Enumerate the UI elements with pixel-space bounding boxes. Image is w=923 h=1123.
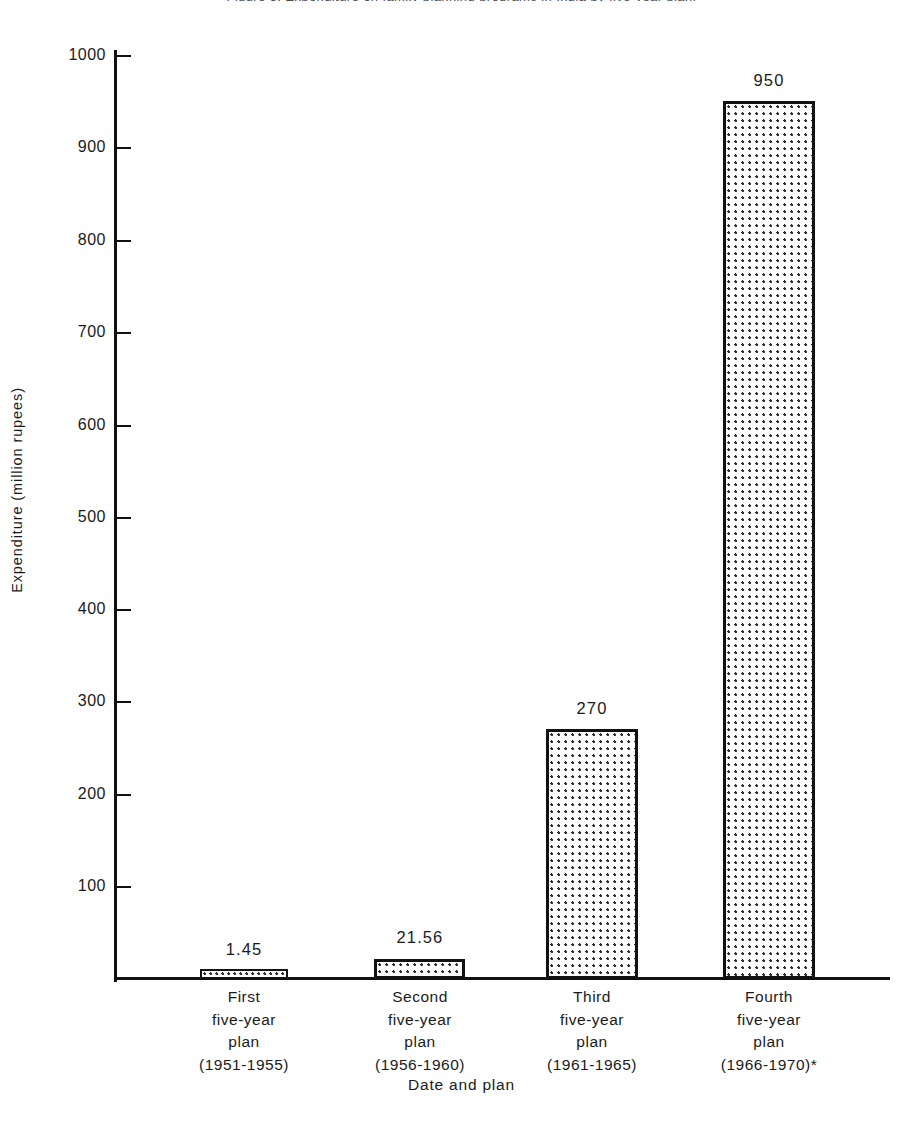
y-tick-label-600: 600 — [48, 417, 106, 433]
category-label-second-line1: Second — [340, 986, 500, 1009]
y-tick-label-900: 900 — [48, 139, 106, 155]
y-tick-700 — [117, 332, 131, 334]
category-label-first-line2: five-year — [164, 1009, 324, 1032]
category-label-fourth-line4: (1966-1970)* — [689, 1054, 849, 1077]
bar-first-five-year-plan[interactable] — [200, 969, 288, 979]
y-tick-label-wrap-500: 500 — [48, 509, 106, 525]
x-axis-title: Date and plan — [0, 1076, 923, 1094]
y-tick-100 — [117, 886, 131, 888]
y-axis-title: Expenditure (million rupees) — [0, 0, 34, 979]
y-tick-label-200: 200 — [48, 786, 106, 802]
y-tick-500 — [117, 517, 131, 519]
category-label-third-line4: (1961-1965) — [512, 1054, 672, 1077]
bar-value-second: 21.56 — [366, 929, 474, 946]
y-tick-800 — [117, 240, 131, 242]
y-axis-line — [114, 50, 117, 982]
y-tick-label-100: 100 — [48, 878, 106, 894]
category-label-second-line3: plan — [340, 1031, 500, 1054]
y-tick-label-400: 400 — [48, 601, 106, 617]
category-label-second-line2: five-year — [340, 1009, 500, 1032]
y-tick-label-700: 700 — [48, 324, 106, 340]
category-label-fourth-line1: Fourth — [689, 986, 849, 1009]
category-label-third-line3: plan — [512, 1031, 672, 1054]
y-tick-400 — [117, 609, 131, 611]
y-tick-900 — [117, 147, 131, 149]
y-tick-label-1000: 1000 — [48, 47, 106, 63]
category-label-first-line3: plan — [164, 1031, 324, 1054]
y-tick-label-wrap-600: 600 — [48, 417, 106, 433]
y-tick-label-wrap-700: 700 — [48, 324, 106, 340]
category-label-fourth: Fourth five-year plan (1966-1970)* — [689, 986, 849, 1076]
bar-third-five-year-plan[interactable] — [546, 729, 638, 979]
bar-value-fourth: 950 — [721, 72, 817, 89]
y-axis-title-text: Expenditure (million rupees) — [9, 387, 25, 593]
category-label-first-line1: First — [164, 986, 324, 1009]
y-tick-600 — [117, 425, 131, 427]
top-caption-cropped: Figure 3. Expenditure on family planning… — [0, 0, 923, 1]
category-label-third-line2: five-year — [512, 1009, 672, 1032]
y-tick-label-wrap-800: 800 — [48, 232, 106, 248]
bar-second-five-year-plan[interactable] — [374, 959, 465, 979]
y-tick-200 — [117, 794, 131, 796]
category-label-first: First five-year plan (1951-1955) — [164, 986, 324, 1076]
y-tick-1000 — [117, 55, 131, 57]
bar-value-third: 270 — [544, 700, 640, 717]
y-tick-label-wrap-900: 900 — [48, 139, 106, 155]
y-tick-label-wrap-300: 300 — [48, 693, 106, 709]
y-tick-label-wrap-100: 100 — [48, 878, 106, 894]
category-label-fourth-line3: plan — [689, 1031, 849, 1054]
category-label-third-line1: Third — [512, 986, 672, 1009]
y-tick-label-800: 800 — [48, 232, 106, 248]
category-label-second: Second five-year plan (1956-1960) — [340, 986, 500, 1076]
category-label-second-line4: (1956-1960) — [340, 1054, 500, 1077]
category-label-third: Third five-year plan (1961-1965) — [512, 986, 672, 1076]
bar-chart: Figure 3. Expenditure on family planning… — [0, 0, 923, 1123]
bar-fourth-five-year-plan[interactable] — [723, 101, 815, 979]
y-tick-300 — [117, 701, 131, 703]
y-tick-label-300: 300 — [48, 693, 106, 709]
bar-value-first: 1.45 — [196, 941, 292, 958]
y-tick-label-wrap-200: 200 — [48, 786, 106, 802]
category-label-first-line4: (1951-1955) — [164, 1054, 324, 1077]
y-tick-label-wrap-1000: 1000 — [48, 47, 106, 63]
y-tick-label-wrap-400: 400 — [48, 601, 106, 617]
category-label-fourth-line2: five-year — [689, 1009, 849, 1032]
y-tick-label-500: 500 — [48, 509, 106, 525]
